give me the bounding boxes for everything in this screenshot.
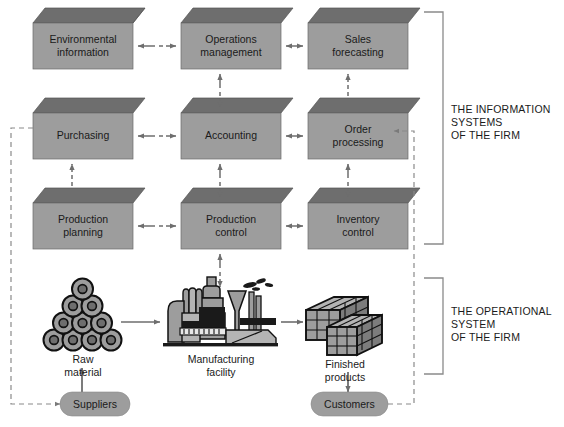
box-purchasing[interactable]: [33, 98, 145, 159]
box-production-control[interactable]: [181, 188, 293, 249]
box-order-processing[interactable]: [308, 98, 420, 159]
box-accounting[interactable]: [181, 98, 293, 159]
diagram-canvas: Environmental information Operations man…: [0, 0, 564, 427]
bracket-label-information-systems: THE INFORMATION SYSTEMS OF THE FIRM: [451, 103, 561, 141]
bracket-operational-system: [424, 278, 443, 374]
box-production-planning[interactable]: [33, 188, 145, 249]
box-environmental-information[interactable]: [33, 8, 145, 69]
raw-material-icon: [44, 279, 122, 351]
box-sales-forecasting[interactable]: [308, 8, 420, 69]
loop-customers-order-processing: [388, 131, 414, 404]
finished-products-icon: [306, 297, 382, 355]
pill-label-suppliers: Suppliers: [60, 398, 130, 410]
box-inventory-control[interactable]: [308, 188, 420, 249]
pill-label-customers: Customers: [311, 398, 388, 410]
box-operations-management[interactable]: [181, 8, 293, 69]
caption-manufacturing-facility: Manufacturing facility: [165, 353, 277, 378]
manufacturing-facility-icon: [163, 277, 278, 346]
bracket-label-operational-system: THE OPERATIONAL SYSTEM OF THE FIRM: [451, 305, 561, 343]
caption-finished-products: Finished products: [300, 358, 390, 383]
caption-raw-material: Raw material: [42, 353, 124, 378]
bracket-information-systems: [424, 12, 443, 244]
